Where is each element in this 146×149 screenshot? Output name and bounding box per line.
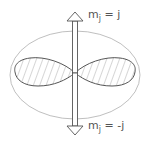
bottom-label: mj = -j — [88, 119, 124, 134]
down-arrow — [67, 73, 83, 135]
angular-momentum-diagram: mj = j mj = -j — [0, 0, 146, 149]
right-lobe — [75, 58, 135, 86]
top-label: mj = j — [88, 8, 120, 23]
up-arrow — [67, 12, 83, 73]
left-lobe — [15, 58, 75, 86]
